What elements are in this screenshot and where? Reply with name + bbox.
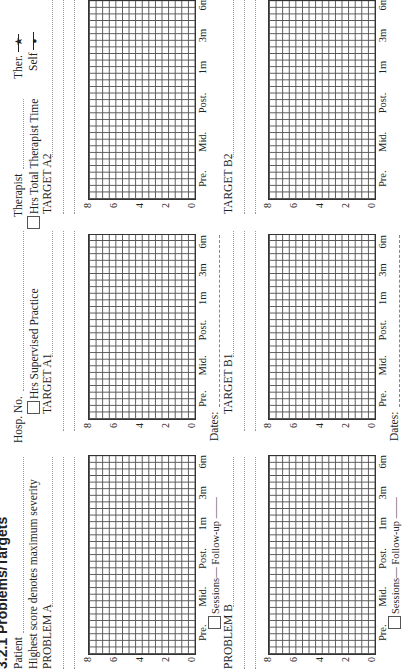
x-label-mid: Mid.	[377, 355, 388, 375]
score-grid-target-a2[interactable]	[88, 0, 196, 200]
x-label-mid: Mid.	[197, 355, 208, 375]
legend-therapist-label: Ther.	[12, 55, 24, 79]
x-label-mid: Mid.	[197, 132, 208, 152]
x-label-pre: Pre.	[377, 170, 388, 187]
patient-line	[23, 457, 24, 633]
x-label-6m: 6m	[377, 455, 388, 468]
sessions-checkbox-a[interactable]	[208, 616, 221, 629]
therapist-label: Therapist	[12, 174, 24, 217]
y-tick-2: 2	[340, 203, 351, 215]
patient-field[interactable]: Patient	[12, 637, 25, 669]
y-tick-2: 2	[160, 203, 171, 215]
score-grid-problem-a[interactable]	[88, 455, 196, 655]
y-tick-8: 8	[262, 657, 273, 669]
y-tick-0: 0	[186, 203, 197, 215]
panel-label-problem-b: PROBLEM B	[222, 604, 235, 669]
problem-a-line-2	[63, 457, 64, 669]
dates-line-b1[interactable]	[399, 235, 400, 407]
panel-label-target-a2: TARGET A2	[41, 153, 54, 214]
supervised-practice-field[interactable]: Hrs Supervised Practice	[27, 289, 41, 415]
target-b2-line-1	[233, 0, 234, 157]
y-tick-4: 4	[134, 657, 145, 669]
followup-label: Follow-up	[390, 521, 401, 565]
y-tick-4: 4	[314, 423, 325, 435]
x-label-1m: 1m	[197, 292, 208, 305]
legend-therapist-line	[18, 34, 19, 52]
x-label-3m: 3m	[197, 29, 208, 42]
patient-label: Patient	[12, 637, 24, 669]
y-tick-4: 4	[134, 203, 145, 215]
y-tick-0: 0	[366, 203, 377, 215]
x-label-post: Post.	[197, 93, 208, 114]
panel-label-target-b2: TARGET B2	[222, 153, 235, 214]
x-label-1m: 1m	[377, 61, 388, 74]
x-labels-target-b1: Pre. Mid. Post. 1m 3m 6m	[377, 235, 388, 407]
y-tick-8: 8	[82, 423, 93, 435]
problem-a-line-1	[52, 457, 53, 607]
hosp-no-field[interactable]: Hosp. No.	[12, 396, 25, 443]
x-label-pre: Pre.	[197, 390, 208, 407]
y-tick-2: 2	[340, 423, 351, 435]
total-therapist-time-field[interactable]: Hrs Total Therapist Time	[27, 99, 41, 229]
dates-label-b1: Dates:	[388, 412, 401, 441]
y-tick-0: 0	[366, 423, 377, 435]
total-therapist-time-checkbox[interactable]	[27, 216, 40, 229]
x-label-pre: Pre.	[197, 624, 208, 641]
y-tick-6: 6	[288, 657, 299, 669]
y-tick-8: 8	[262, 423, 273, 435]
target-b1-line-1	[233, 231, 234, 357]
sessions-followup-row-a: Sessions— Follow-up ——	[208, 497, 221, 629]
target-a1-line-2	[63, 231, 64, 431]
y-tick-2: 2	[160, 423, 171, 435]
x-label-6m: 6m	[197, 0, 208, 10]
x-label-pre: Pre.	[377, 624, 388, 641]
target-a2-line-2	[63, 0, 64, 214]
y-tick-4: 4	[314, 657, 325, 669]
x-label-post: Post.	[377, 93, 388, 114]
therapist-field[interactable]: Therapist	[12, 174, 25, 217]
supervised-practice-label: Hrs Supervised Practice	[28, 289, 40, 400]
x-label-3m: 3m	[197, 263, 208, 276]
score-grid-target-b2[interactable]	[268, 0, 376, 200]
y-tick-6: 6	[288, 423, 299, 435]
target-b2-line-2	[244, 0, 245, 214]
problem-b-line-2	[244, 457, 245, 669]
sessions-followup-row-b: Sessions— Follow-up ——	[388, 497, 401, 629]
x-label-mid: Mid.	[377, 587, 388, 607]
document-frame: 3.2.1 Problems/Targets Patient Highest s…	[0, 0, 406, 669]
x-label-pre: Pre.	[377, 390, 388, 407]
problem-a-line-3	[74, 457, 75, 669]
target-b1-line-3	[255, 231, 256, 431]
y-tick-4: 4	[314, 203, 325, 215]
score-grid-target-b1[interactable]	[268, 234, 376, 420]
x-labels-problem-b: Pre. Mid. Post. 1m 3m 6m	[377, 455, 388, 641]
target-a2-line-1	[52, 0, 53, 157]
dates-line-a1[interactable]	[219, 235, 220, 407]
supervised-practice-checkbox[interactable]	[27, 401, 40, 414]
legend-self: Self ●	[27, 39, 41, 71]
dates-label-a1: Dates:	[208, 412, 221, 441]
y-tick-6: 6	[108, 657, 119, 669]
x-label-post: Post.	[197, 548, 208, 569]
y-tick-0: 0	[186, 423, 197, 435]
x-label-3m: 3m	[377, 486, 388, 499]
y-tick-4: 4	[134, 423, 145, 435]
score-grid-target-a1[interactable]	[88, 234, 196, 420]
legend-self-label: Self	[27, 52, 39, 71]
problem-b-line-1	[233, 457, 234, 607]
x-labels-target-b2: Pre. Mid. Post. 1m 3m 6m	[377, 0, 388, 187]
sessions-label: Sessions	[210, 578, 221, 614]
x-label-post: Post.	[377, 548, 388, 569]
y-tick-8: 8	[82, 657, 93, 669]
score-grid-problem-b[interactable]	[268, 455, 376, 655]
x-label-3m: 3m	[197, 486, 208, 499]
x-label-6m: 6m	[377, 235, 388, 248]
x-label-post: Post.	[197, 320, 208, 341]
followup-label: Follow-up	[210, 521, 221, 565]
sessions-checkbox-b[interactable]	[388, 616, 401, 629]
x-label-mid: Mid.	[377, 132, 388, 152]
target-b2-line-3	[255, 0, 256, 214]
y-tick-0: 0	[186, 657, 197, 669]
total-therapist-time-label: Hrs Total Therapist Time	[28, 99, 40, 214]
panel-label-target-b1: TARGET B1	[222, 353, 235, 414]
